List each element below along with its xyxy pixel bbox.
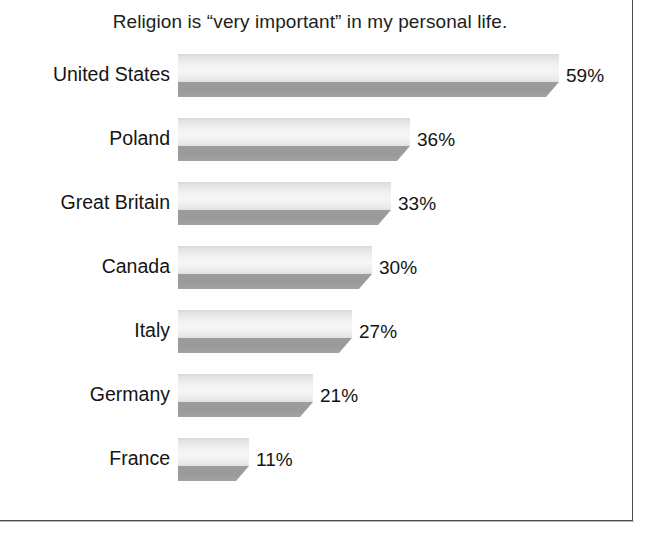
bar-category-label: United States	[53, 63, 170, 86]
bar-shape	[178, 310, 352, 353]
bar-row: Germany21%	[0, 374, 651, 418]
bar-value-label: 30%	[379, 257, 417, 279]
bar-category-label: Italy	[134, 319, 170, 342]
bar-shape	[178, 182, 391, 225]
bar-shape	[178, 374, 313, 417]
bar-row: United States59%	[0, 54, 651, 98]
bar-bottom-face	[178, 338, 352, 353]
bar-shape	[178, 54, 559, 97]
plot-area: United States59%Poland36%Great Britain33…	[0, 0, 651, 535]
chart-figure: Religion is “very important” in my perso…	[0, 0, 651, 535]
bar-top-face	[178, 438, 249, 466]
bar-value-label: 36%	[417, 129, 455, 151]
bar-row: Italy27%	[0, 310, 651, 354]
bar-top-face	[178, 118, 410, 146]
bar-category-label: Great Britain	[61, 191, 170, 214]
bar-shape	[178, 438, 249, 481]
bar-bottom-face	[178, 402, 313, 417]
bar-category-label: France	[109, 447, 170, 470]
bar-bottom-face	[178, 466, 249, 481]
bar-value-label: 11%	[256, 449, 293, 471]
bar-category-label: Canada	[102, 255, 170, 278]
bar-top-face	[178, 310, 352, 338]
bar-category-label: Poland	[109, 127, 170, 150]
bar-value-label: 27%	[359, 321, 397, 343]
bar-bottom-face	[178, 210, 391, 225]
bar-shape	[178, 246, 372, 289]
bar-row: Great Britain33%	[0, 182, 651, 226]
bar-row: France11%	[0, 438, 651, 482]
bar-value-label: 21%	[320, 385, 358, 407]
bar-shape	[178, 118, 410, 161]
bar-row: Poland36%	[0, 118, 651, 162]
bar-bottom-face	[178, 146, 410, 161]
bar-top-face	[178, 54, 559, 82]
bar-top-face	[178, 182, 391, 210]
bar-value-label: 59%	[566, 65, 604, 87]
bar-value-label: 33%	[398, 193, 436, 215]
bar-bottom-face	[178, 82, 559, 97]
bar-top-face	[178, 374, 313, 402]
bar-top-face	[178, 246, 372, 274]
bar-bottom-face	[178, 274, 372, 289]
bar-row: Canada30%	[0, 246, 651, 290]
bar-category-label: Germany	[90, 383, 170, 406]
